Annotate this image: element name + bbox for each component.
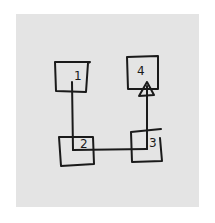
node-2-label: 2	[80, 137, 88, 151]
node-2-box	[59, 137, 94, 166]
edge-1-2	[72, 82, 73, 150]
box-diagram: 1 2 3 4	[0, 0, 215, 223]
node-3-label: 3	[149, 136, 157, 150]
node-4-label: 4	[137, 64, 145, 78]
node-1-label: 1	[74, 69, 82, 83]
